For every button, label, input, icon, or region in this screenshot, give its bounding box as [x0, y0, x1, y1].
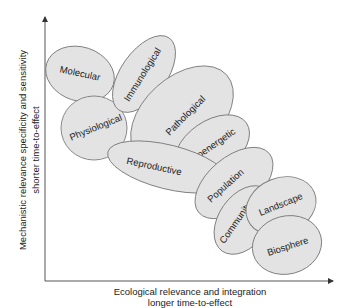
- x-axis-label-line1: Ecological relevance and integration: [114, 286, 267, 297]
- y-axis-label-line2: shorter time-to-effect: [30, 106, 41, 194]
- x-axis-label-line2: longer time-to-effect: [148, 297, 233, 308]
- ecotoxicology-levels-diagram: Molecular Physiological Immunological Pa…: [0, 0, 345, 308]
- y-axis-label-line1: Mechanistic relevance specificity and se…: [17, 50, 28, 250]
